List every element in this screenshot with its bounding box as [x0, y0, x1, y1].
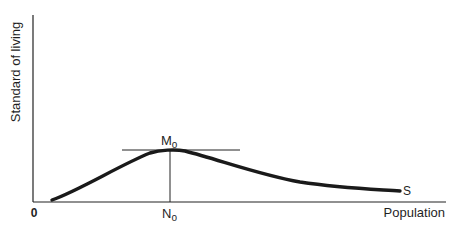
standard-of-living-diagram: Standard of living 0 Population S Mo No	[0, 0, 458, 234]
peak-label-mo: Mo	[161, 133, 178, 150]
x-axis-label: Population	[384, 205, 445, 220]
curve-end-label-s: S	[403, 184, 411, 198]
standard-of-living-curve	[52, 150, 400, 200]
y-axis-label: Standard of living	[8, 22, 23, 122]
peak-x-label-no: No	[162, 206, 177, 223]
origin-label: 0	[31, 206, 38, 220]
